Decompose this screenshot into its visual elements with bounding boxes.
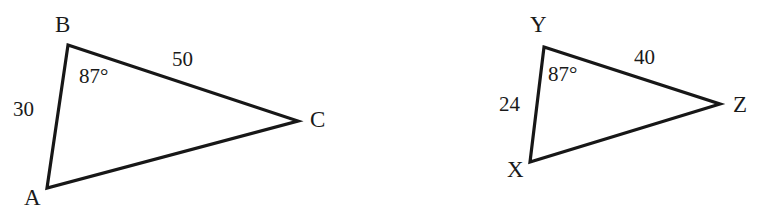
side-length-xy: 24 — [499, 94, 520, 115]
triangles-svg — [0, 0, 773, 210]
side-length-bc: 50 — [172, 49, 193, 70]
angle-measure-b: 87° — [79, 66, 108, 87]
geometry-diagram: B C A 50 30 87° Y Z X 40 24 87° — [0, 0, 773, 210]
vertex-label-c: C — [310, 108, 325, 131]
vertex-label-a: A — [24, 186, 41, 209]
angle-measure-y: 87° — [548, 64, 577, 85]
vertex-label-y: Y — [530, 13, 547, 36]
vertex-label-x: X — [507, 158, 524, 181]
side-length-yz: 40 — [634, 47, 655, 68]
vertex-label-z: Z — [733, 93, 747, 116]
vertex-label-b: B — [55, 13, 70, 36]
side-length-ab: 30 — [13, 99, 34, 120]
